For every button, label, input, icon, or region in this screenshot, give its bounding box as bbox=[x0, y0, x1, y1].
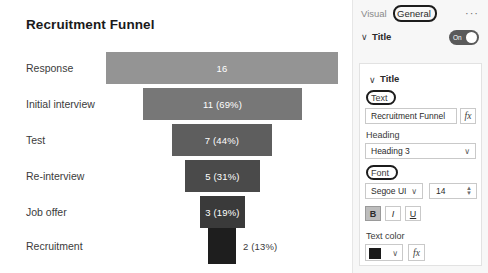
format-pane: Visual General ··· ∨ Title On ∨ Title Te… bbox=[352, 0, 488, 273]
funnel-bar[interactable]: 5 (31%) bbox=[185, 160, 260, 192]
bold-button[interactable]: B bbox=[365, 206, 381, 221]
funnel-row[interactable]: Recruitment 2 (13%) bbox=[0, 228, 352, 264]
funnel-category-label: Job offer bbox=[26, 206, 67, 218]
tab-general[interactable]: General bbox=[397, 8, 431, 19]
funnel-category-label: Re-interview bbox=[26, 170, 84, 182]
chevron-down-icon: ∨ bbox=[411, 187, 417, 196]
title-section-label: Title bbox=[372, 31, 391, 42]
funnel-bar-value: 3 (19%) bbox=[205, 207, 239, 218]
stepper-arrows-icon[interactable]: ▲ ▼ bbox=[466, 186, 472, 196]
title-section-header[interactable]: ∨ Title On bbox=[353, 29, 488, 47]
title-text-input[interactable]: Recruitment Funnel bbox=[365, 108, 457, 124]
chevron-down-icon: ∨ bbox=[464, 147, 470, 156]
card-title-label: Title bbox=[380, 73, 399, 84]
funnel-category-label: Initial interview bbox=[26, 98, 95, 110]
more-options-icon[interactable]: ··· bbox=[465, 7, 479, 19]
funnel-bar-value: 16 bbox=[217, 63, 228, 74]
funnel-category-label: Response bbox=[26, 62, 73, 74]
heading-dropdown[interactable]: Heading 3 ∨ bbox=[365, 143, 476, 159]
heading-dropdown-value: Heading 3 bbox=[371, 146, 410, 156]
funnel-bar[interactable]: 3 (19%) bbox=[200, 196, 245, 228]
funnel-row[interactable]: Re-interview 5 (31%) bbox=[0, 160, 352, 192]
title-toggle-state-label: On bbox=[453, 33, 462, 42]
title-settings-card: ∨ Title Text Recruitment Funnel fx Headi… bbox=[359, 63, 482, 266]
text-color-label: Text color bbox=[366, 231, 405, 241]
funnel-bar[interactable] bbox=[208, 228, 236, 264]
underline-label: U bbox=[410, 209, 417, 219]
chevron-down-icon: ∨ bbox=[392, 249, 398, 258]
funnel-row[interactable]: Test 7 (44%) bbox=[0, 124, 352, 156]
stepper-down-icon[interactable]: ▼ bbox=[466, 191, 472, 196]
italic-label: I bbox=[392, 209, 395, 219]
title-toggle[interactable]: On bbox=[449, 30, 479, 45]
font-size-value: 14 bbox=[436, 186, 445, 196]
funnel-bar[interactable]: 7 (44%) bbox=[172, 124, 272, 156]
funnel-bar[interactable]: 16 bbox=[106, 52, 338, 84]
chevron-down-icon[interactable]: ∨ bbox=[369, 75, 376, 85]
funnel-category-label: Recruitment bbox=[26, 240, 83, 252]
toggle-knob bbox=[466, 32, 477, 43]
italic-button[interactable]: I bbox=[385, 206, 401, 221]
funnel-bar-value: 5 (31%) bbox=[205, 171, 239, 182]
font-family-value: Segoe UI bbox=[371, 186, 406, 196]
funnel-row[interactable]: Job offer 3 (19%) bbox=[0, 196, 352, 228]
text-color-picker[interactable]: ∨ bbox=[365, 244, 403, 261]
funnel-row[interactable]: Response 16 bbox=[0, 52, 352, 84]
color-swatch bbox=[369, 248, 381, 259]
heading-field-label: Heading bbox=[366, 130, 400, 140]
font-family-dropdown[interactable]: Segoe UI ∨ bbox=[365, 183, 423, 199]
text-color-fx-button[interactable]: fx bbox=[408, 244, 425, 261]
funnel-chart-visual[interactable]: Recruitment Funnel Response 16 Initial i… bbox=[0, 0, 352, 273]
funnel-bar[interactable]: 11 (69%) bbox=[143, 88, 302, 120]
funnel-bar-value: 2 (13%) bbox=[243, 241, 277, 252]
underline-button[interactable]: U bbox=[405, 206, 421, 221]
title-text-fx-button[interactable]: fx bbox=[460, 108, 476, 124]
funnel-category-label: Test bbox=[26, 134, 45, 146]
bold-label: B bbox=[370, 209, 377, 219]
chevron-down-icon[interactable]: ∨ bbox=[361, 32, 368, 42]
tab-visual[interactable]: Visual bbox=[361, 8, 387, 19]
font-size-stepper[interactable]: 14 ▲ ▼ bbox=[429, 183, 477, 199]
format-pane-tabs: Visual General ··· bbox=[353, 6, 488, 24]
font-field-label: Font bbox=[371, 168, 389, 178]
funnel-bar-value: 7 (44%) bbox=[205, 135, 239, 146]
text-field-label: Text bbox=[371, 93, 388, 103]
chart-title: Recruitment Funnel bbox=[26, 17, 155, 32]
funnel-row[interactable]: Initial interview 11 (69%) bbox=[0, 88, 352, 120]
funnel-bar-value: 11 (69%) bbox=[203, 99, 242, 110]
